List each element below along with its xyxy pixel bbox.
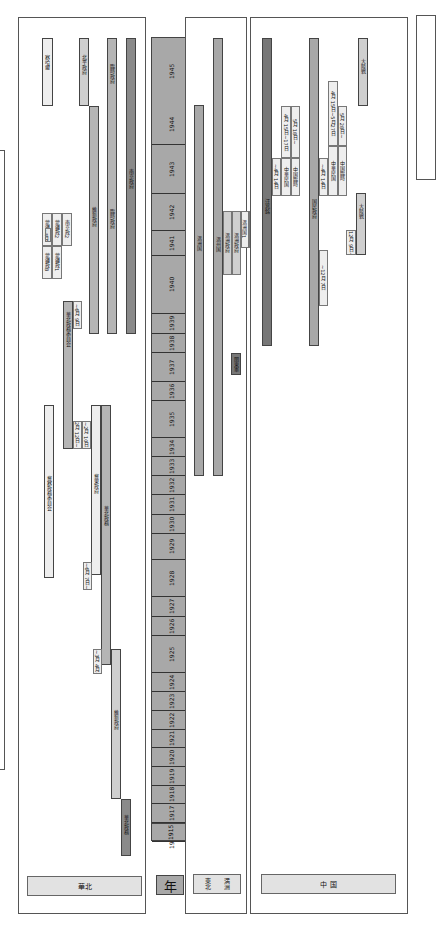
bar-8: 冀東政府: [91, 405, 101, 575]
bar-5-label: 南京政府: [128, 169, 134, 189]
bar-5: 南京政府: [126, 38, 136, 334]
bar-6: 華北政務委員会: [63, 301, 73, 449]
bar-continent-label: 大陸戦: [360, 59, 366, 74]
note-jun9: ~6月 9日: [73, 301, 82, 329]
note-jun7: ~6月 7日~: [83, 562, 92, 590]
bar-continent-2: 大陸戦: [356, 193, 366, 255]
bar-nationalist-label: 国民政府: [311, 199, 317, 219]
small-box-m1: 満洲政府: [223, 211, 232, 275]
small-box-r4: 中国臨時: [338, 146, 347, 196]
small-box-r1: 中華民国: [281, 158, 291, 196]
bar-9: 華北政務: [101, 405, 111, 665]
note-feb12: 2月 12日~: [73, 421, 82, 449]
small-box-m3: 満洲国1: [241, 211, 249, 248]
bar-2-label: 北平政府: [81, 55, 87, 75]
year-axis-last: 1915: [151, 823, 189, 841]
note-r8: 12月 9日~: [346, 230, 356, 255]
bar-manchukuo: 満洲国: [194, 105, 204, 476]
bar-3: 維新政府: [89, 106, 99, 334]
bar-7: 冀察政務委員会: [44, 405, 54, 578]
bar-4-label-b: 臨時政府: [109, 209, 115, 229]
note-mar4: ~3月 4月~: [93, 649, 102, 674]
bar-7-label: 冀察政務委員会: [46, 476, 52, 511]
bar-continent: 大陸戦: [358, 38, 368, 106]
panel-label: 満洲: [222, 878, 231, 890]
panel-label-north-china: 華北: [27, 876, 142, 896]
small-box-2: 蒙疆政B: [42, 246, 52, 279]
panel-china: 汪兆銘 ~4月 14日 中華民国 中国臨時 4月 15日~17日 5月 18日~…: [250, 17, 408, 914]
note-r2: 4月 15日~17日: [281, 106, 291, 158]
bar-continent-2-label: 大陸戦: [358, 204, 364, 219]
small-box-4: 蒙疆政1: [52, 246, 62, 279]
bar-8-label: 冀東政府: [93, 474, 99, 494]
bar-manchukuo-2-label: 満州国: [215, 237, 221, 252]
bar-9-label: 華北政務: [103, 506, 109, 526]
bar-1-label: 察哈爾: [44, 55, 50, 70]
note-r3: 5月 18日~: [291, 106, 300, 158]
bar-wang: 汪兆銘: [262, 38, 272, 346]
panel-manchuria: 満洲国 満州国 満洲政府 満洲政府 満洲国1 満洲国2 関東軍 東北 満洲: [185, 17, 247, 914]
bar-4-label: 臨時政府: [109, 64, 115, 84]
bar-10-label: 維新政府: [113, 710, 119, 730]
note-r7: ~12月 7日: [319, 250, 328, 306]
panel-label-manchuria: 東北 満洲: [193, 874, 241, 894]
small-box-5: 南京政2: [62, 213, 72, 246]
note-r5: 4月 15日~5月27日: [328, 81, 338, 146]
bar-11: 華北政務: [121, 799, 131, 856]
bar-kwantung-label: 関東軍: [233, 357, 239, 372]
bar-nationalist: 国民政府: [309, 38, 319, 346]
bar-4: 臨時政府 臨時政府: [107, 38, 117, 334]
year-axis: 1945 1944 1943 1942 1941 1940 1939 1938 …: [151, 37, 189, 841]
bar-3-label: 維新政府: [91, 207, 97, 227]
bar-wang-label: 汪兆銘: [264, 199, 270, 214]
small-box-r3: 中華民国: [328, 146, 338, 196]
note-r1: ~4月 14日: [272, 158, 281, 196]
bar-manchukuo-2: 満州国: [213, 38, 223, 476]
bar-2: 北平政府: [79, 38, 89, 106]
bar-10: 維新政府: [111, 649, 121, 799]
note-feb10: ~2月 10日: [82, 421, 91, 449]
panel-north-china: 察哈爾 北平政府 維新政府 臨時政府 臨時政府 南京政府 蒙疆政A 蒙疆政B 蒙…: [18, 17, 146, 914]
small-box-m2: 満洲政府: [232, 211, 241, 275]
bar-11-label: 華北政務: [123, 815, 129, 835]
panel-label-china: 中 国: [261, 874, 396, 894]
bar-kwantung: 関東軍: [231, 353, 241, 375]
bar-1: 察哈爾: [42, 38, 53, 106]
panel-sublabel: 東北: [203, 878, 212, 890]
note-r6: 5月 28日~: [338, 106, 347, 146]
bar-6-label: 華北政務委員会: [65, 312, 71, 347]
partial-panel-right: [416, 15, 436, 180]
note-r4: ~4月 14日: [319, 158, 328, 196]
small-box-3: 蒙疆政2: [52, 213, 62, 246]
note-may: ~5月: [45, 228, 51, 242]
bar-manchukuo-label: 満洲国: [196, 236, 202, 251]
small-box-r2: 中国臨時: [291, 158, 300, 196]
year-axis-label: 年: [156, 875, 184, 895]
partial-panel-left: [0, 150, 5, 770]
